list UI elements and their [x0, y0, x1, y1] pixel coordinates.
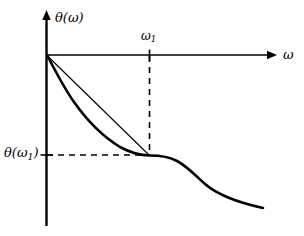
x-axis [47, 51, 278, 59]
y-axis-label: θ(ω) [55, 11, 84, 24]
phase-response-figure: θ(ω) ω ω1 θ(ω1) [0, 0, 304, 236]
theta-omega-1-tick-label: θ(ω1) [4, 146, 39, 161]
theta-omega-1-prefix: θ(ω [4, 145, 28, 160]
omega-1-subscript: 1 [151, 34, 157, 44]
theta-omega-1-suffix: ) [33, 145, 38, 160]
omega-1-tick-label: ω1 [141, 30, 156, 44]
x-axis-arrowhead [267, 51, 277, 59]
y-axis-arrowhead [42, 10, 50, 20]
x-axis-label: ω [283, 48, 294, 61]
y-axis [42, 10, 50, 226]
chord-line [48, 56, 150, 155]
omega-1-symbol: ω [141, 29, 151, 43]
phase-curve [48, 56, 264, 208]
